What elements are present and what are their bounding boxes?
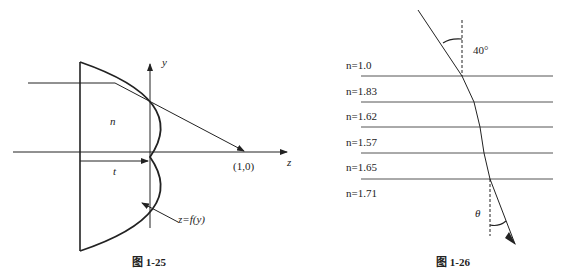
incident-angle-arc bbox=[443, 39, 462, 43]
layer-label: n=1.0 bbox=[346, 59, 372, 71]
lens-curved-surface bbox=[80, 62, 161, 251]
layer-label: n=1.83 bbox=[346, 85, 377, 97]
layer-label: n=1.71 bbox=[346, 187, 377, 199]
y-axis-label: y bbox=[161, 56, 167, 68]
focus-point-label: (1,0) bbox=[233, 160, 254, 173]
layer-label: n=1.65 bbox=[346, 161, 377, 173]
exit-angle-label: θ bbox=[475, 207, 481, 219]
layer-label: n=1.57 bbox=[346, 136, 377, 148]
z-axis-label: z bbox=[286, 156, 292, 168]
caption-1-25: 图 1-25 bbox=[132, 256, 166, 268]
thickness-label: t bbox=[113, 165, 117, 177]
exit-angle-arc bbox=[490, 221, 506, 226]
figures-canvas: y z n t (1,0) z=f(y) 图 1-25 40° θ n=1.0 … bbox=[0, 0, 568, 280]
incident-angle-label: 40° bbox=[473, 44, 488, 56]
index-label: n bbox=[110, 115, 116, 127]
refracted-ray bbox=[115, 83, 244, 151]
ray-arrowhead bbox=[505, 232, 516, 245]
layer-label: n=1.62 bbox=[346, 110, 377, 122]
figure-1-25: y z n t (1,0) z=f(y) 图 1-25 bbox=[13, 56, 292, 268]
surface-pointer bbox=[142, 203, 178, 222]
caption-1-26: 图 1-26 bbox=[436, 256, 470, 268]
figure-1-26: 40° θ n=1.0 n=1.83 n=1.62 n=1.57 n=1.65 … bbox=[346, 10, 553, 268]
surface-label: z=f(y) bbox=[177, 213, 205, 226]
